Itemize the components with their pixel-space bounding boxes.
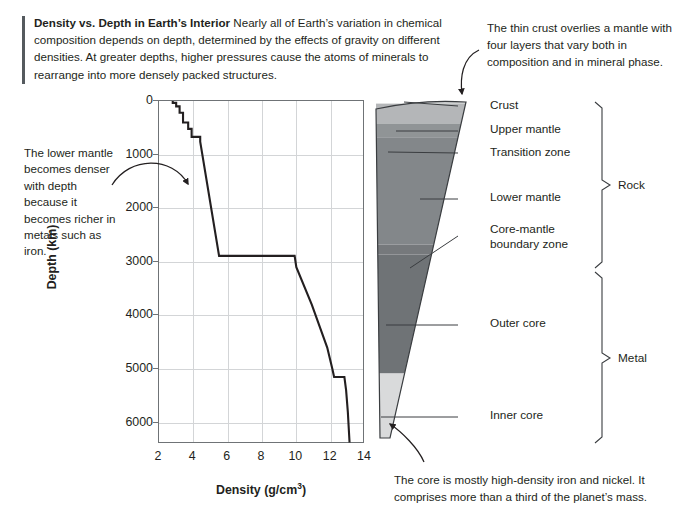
y-axis-title: Depth (km) [45, 197, 59, 317]
wedge-layer-core-mantle-boundary-zone [378, 244, 434, 254]
x-axis-tick-label: 6 [223, 449, 230, 463]
density-curve [159, 101, 365, 444]
x-axis-tick-label: 2 [155, 449, 162, 463]
x-axis-tick-label: 12 [323, 449, 337, 463]
x-axis-tick-label: 8 [258, 449, 265, 463]
y-axis-tick-mark [153, 368, 158, 369]
group-bracket-rock [595, 102, 610, 268]
layer-label-lower-mantle: Lower mantle [490, 190, 561, 205]
x-axis-tick-label: 10 [288, 449, 302, 463]
density-unit-exponent: 3 [297, 481, 302, 491]
y-axis-tick-mark [153, 314, 158, 315]
wedge-layer-transition-zone [376, 124, 461, 138]
header-accent-rule [22, 16, 25, 84]
layer-label-upper-mantle: Upper mantle [490, 122, 561, 137]
layer-label-outer-core: Outer core [490, 316, 546, 331]
x-axis-tick-label: 4 [189, 449, 196, 463]
density-curve-path [173, 101, 350, 442]
crust-annotation-text: The thin crust overlies a mantle with fo… [487, 19, 687, 71]
group-bracket-metal [595, 272, 610, 443]
y-axis-tick-label: 6000 [125, 415, 153, 429]
wedge-layer-outer-core [378, 254, 432, 373]
group-label-rock: Rock [618, 178, 645, 192]
x-axis-title: Density (g/cm3) [158, 481, 364, 497]
y-axis-tick-label: 0 [146, 93, 153, 107]
y-axis-tick-mark [153, 207, 158, 208]
layer-label-crust: Crust [490, 98, 518, 113]
core-annotation-text: The core is mostly high-density iron and… [394, 472, 688, 505]
y-axis-tick-label: 5000 [125, 361, 153, 375]
group-label-metal: Metal [618, 351, 647, 365]
y-axis-tick-mark [153, 154, 158, 155]
y-axis-tick-label: 2000 [125, 200, 153, 214]
y-axis-tick-mark [153, 422, 158, 423]
x-axis-ticks: 2468101214 [158, 449, 364, 469]
y-axis-tick-label: 3000 [125, 254, 153, 268]
density-depth-chart [158, 100, 364, 443]
crust-note-arrow [461, 50, 479, 94]
header-text: Density vs. Depth in Earth’s Interior Ne… [34, 14, 460, 83]
earth-interior-wedge [366, 98, 484, 446]
y-axis-tick-mark [153, 261, 158, 262]
page-title: Density vs. Depth in Earth’s Interior [34, 16, 230, 29]
layer-label-core-mantle-boundary-zone: Core-mantleboundary zone [490, 222, 568, 251]
y-axis-tick-label: 1000 [125, 147, 153, 161]
y-axis-tick-mark [153, 100, 158, 101]
y-axis-tick-label: 4000 [125, 307, 153, 321]
y-axis-ticks: 0100020003000400050006000 [100, 100, 153, 443]
x-axis-tick-label: 14 [357, 449, 371, 463]
layer-label-transition-zone: Transition zone [490, 145, 570, 160]
layer-label-inner-core: Inner core [490, 408, 543, 423]
wedge-svg [366, 98, 484, 446]
figure-header: Density vs. Depth in Earth’s Interior Ne… [22, 14, 460, 83]
